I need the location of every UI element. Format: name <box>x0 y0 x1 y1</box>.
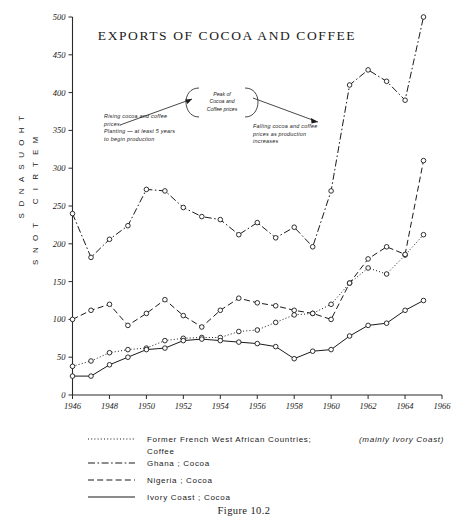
data-point-marker <box>292 356 297 361</box>
data-point-marker <box>237 329 242 334</box>
x-tick-label: 1950 <box>138 401 156 411</box>
data-point-marker <box>329 317 334 322</box>
data-point-marker <box>89 255 94 260</box>
data-point-marker <box>181 313 186 318</box>
data-point-marker <box>273 304 278 309</box>
data-point-marker <box>163 297 168 302</box>
bubble-text: Peak ofCocoa andCoffee prices <box>207 91 238 112</box>
data-point-marker <box>237 340 242 345</box>
y-axis-name: THOUSANDSMETRICTONS <box>17 115 40 265</box>
data-point-marker <box>200 214 205 219</box>
data-point-marker <box>181 338 186 343</box>
data-point-marker <box>421 15 426 20</box>
y-axis-name-letter: S <box>17 164 26 170</box>
data-point-marker <box>163 189 168 194</box>
data-point-marker <box>181 205 186 210</box>
y-tick-label: 350 <box>52 125 67 135</box>
annotation-line: Planting — at least 5 years <box>104 128 175 134</box>
figure-caption: Figure 10.2 <box>218 505 271 516</box>
data-point-marker <box>347 281 352 286</box>
x-tick-label: 1964 <box>397 401 415 411</box>
bubble-text-line: Peak of <box>213 91 231 97</box>
data-point-marker <box>70 374 75 379</box>
data-series-group <box>70 15 426 379</box>
data-point-marker <box>200 337 205 342</box>
legend-item-solid[interactable]: Ivory Coast ; Cocoa <box>88 493 231 502</box>
data-point-marker <box>292 313 297 318</box>
y-axis-name-letter: S <box>31 259 40 265</box>
data-point-marker <box>421 232 426 237</box>
y-axis-name-letter: U <box>17 151 26 157</box>
y-axis-name-letter: T <box>31 223 40 228</box>
y-axis-ticks: 050100150200250300350400450500 <box>52 12 73 400</box>
legend: Former French West African Countries;(ma… <box>88 435 444 502</box>
y-tick-label: 0 <box>61 390 66 400</box>
data-point-marker <box>70 364 75 369</box>
y-tick-label: 150 <box>53 277 67 287</box>
legend-label-line2: Coffee <box>147 447 175 456</box>
data-point-marker <box>107 363 112 368</box>
data-point-marker <box>403 98 408 103</box>
data-point-marker <box>144 187 149 192</box>
annotation-line: prices. <box>103 121 122 127</box>
annotation-line: increases <box>253 138 278 144</box>
annotations-group: Peak ofCocoa andCoffee prices Rising coc… <box>103 88 318 144</box>
y-axis-name-letter: N <box>17 188 26 194</box>
data-point-marker <box>107 350 112 355</box>
data-point-marker <box>70 211 75 216</box>
data-point-marker <box>384 321 389 326</box>
y-axis-name-letter: O <box>17 139 26 146</box>
y-tick-label: 300 <box>52 163 67 173</box>
data-point-marker <box>255 341 260 346</box>
data-point-marker <box>347 334 352 339</box>
data-point-marker <box>403 308 408 313</box>
y-axis-name-letter: D <box>17 200 26 206</box>
data-point-marker <box>403 252 408 257</box>
data-point-marker <box>70 317 75 322</box>
data-point-marker <box>218 338 223 343</box>
annotation-line: prices as production <box>252 131 306 137</box>
data-point-marker <box>273 344 278 349</box>
legend-item-dashdot[interactable]: Ghana ; Cocoa <box>88 459 210 468</box>
y-tick-label: 100 <box>53 314 67 324</box>
bubble-right-arc <box>245 88 258 117</box>
y-tick-label: 200 <box>53 239 67 249</box>
data-point-marker <box>329 302 334 307</box>
y-axis-name-letter: S <box>17 213 26 219</box>
leader-left <box>120 99 192 125</box>
y-tick-label: 500 <box>53 12 67 22</box>
data-point-marker <box>310 311 315 316</box>
data-point-marker <box>310 245 315 250</box>
data-point-marker <box>89 374 94 379</box>
data-point-marker <box>107 302 112 307</box>
legend-item-dashed[interactable]: Nigeria ; Cocoa <box>88 476 213 485</box>
annotation-left-text: Rising cocoa and coffeeprices.Planting —… <box>103 113 175 142</box>
data-point-marker <box>144 347 149 352</box>
legend-item-dotted[interactable]: Former French West African Countries;(ma… <box>88 435 444 456</box>
data-point-marker <box>237 296 242 301</box>
x-tick-label: 1956 <box>249 401 267 411</box>
leader-right <box>253 98 318 122</box>
data-point-marker <box>126 355 131 360</box>
data-point-marker <box>218 308 223 313</box>
x-tick-label: 1958 <box>286 401 304 411</box>
data-point-marker <box>347 83 352 88</box>
y-axis-name-letter: R <box>31 173 40 179</box>
y-axis-name-letter: I <box>31 187 40 190</box>
y-tick-label: 400 <box>53 88 67 98</box>
exports-line-chart: EXPORTS OF COCOA AND COFFEE THOUSANDSMET… <box>0 0 454 524</box>
annotation-line: Rising cocoa and coffee <box>104 113 167 119</box>
y-axis-name-letter: H <box>17 127 26 133</box>
data-point-marker <box>366 323 371 328</box>
legend-label: Ghana ; Cocoa <box>147 459 210 468</box>
data-point-marker <box>255 328 260 333</box>
bubble-text-line: Cocoa and <box>209 98 235 104</box>
data-point-marker <box>107 237 112 242</box>
data-point-marker <box>126 323 131 328</box>
y-axis-name-letter: N <box>31 247 40 253</box>
data-point-marker <box>292 225 297 230</box>
data-point-marker <box>329 347 334 352</box>
data-point-marker <box>329 189 334 194</box>
x-tick-label: 1946 <box>64 401 82 411</box>
data-point-marker <box>310 349 315 354</box>
